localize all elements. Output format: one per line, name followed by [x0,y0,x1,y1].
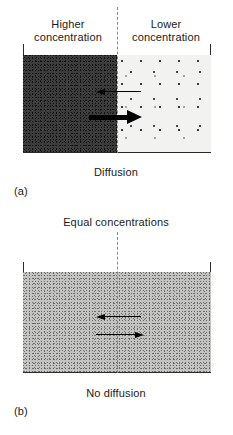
flux-leftward-thin-arrow [96,313,141,321]
panel-b-tag: (b) [14,405,28,417]
net-flux-rightward-thick-arrow [89,110,142,124]
equal-concentrations-label: Equal concentrations [16,216,216,229]
divider-line-b [117,232,118,373]
arrow-head-right-icon [127,110,142,124]
sparse-particle-texture [117,55,211,152]
net-flux-leftward-thin-arrow [96,88,141,96]
lower-concentration-label: Lower concentration [120,18,212,44]
panel-a-tag: (a) [14,185,28,197]
panel-b-caption: No diffusion [16,387,216,399]
arrow-shaft [104,91,141,92]
arrow-shaft [104,316,141,317]
higher-concentration-label: Higher concentration [22,18,114,44]
arrow-head-right-icon [135,332,144,338]
high-concentration-region [23,55,117,152]
flux-rightward-thin-arrow [96,331,144,339]
panel-a-caption: Diffusion [16,166,216,178]
arrow-shaft [96,334,136,335]
low-concentration-region [117,55,211,152]
divider-line-a [117,7,118,153]
dense-particle-texture [23,55,117,152]
arrow-head-left-icon [96,314,105,320]
diffusion-figure: Higher concentration Lower concentration [0,0,233,435]
arrow-head-left-icon [96,89,105,95]
arrow-shaft [89,115,130,120]
